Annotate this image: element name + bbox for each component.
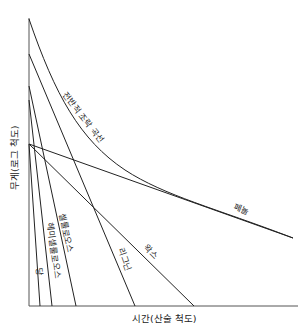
overall-decay-curve (29, 19, 293, 238)
label-phenol: 페놀 (232, 202, 251, 217)
decay-chart: 전반적 조락 곡선 페놀 왁스 리그닌 셀룰로오스 헤미셀룰로오스 당 시간(산… (0, 0, 302, 334)
x-axis-title: 시간(산술 척도) (132, 313, 196, 324)
label-overall-decay: 전반적 조락 곡선 (60, 90, 106, 145)
sugar-line (29, 144, 40, 306)
y-axis-title: 무게(로그 척도) (9, 126, 20, 190)
label-sugar: 당 (34, 267, 45, 276)
label-wax: 왁스 (142, 242, 160, 260)
label-cellulose: 셀룰로오스 (57, 212, 75, 253)
